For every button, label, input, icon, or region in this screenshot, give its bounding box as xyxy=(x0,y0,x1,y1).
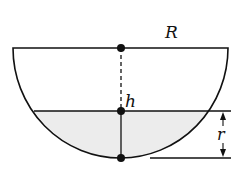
surface-center-dot xyxy=(117,107,125,115)
label-r: r xyxy=(217,125,226,144)
diagram-svg: R h r xyxy=(0,0,231,180)
arrow-up-icon xyxy=(220,112,226,120)
label-h: h xyxy=(125,91,136,111)
arrow-down-icon xyxy=(220,149,226,157)
top-center-dot xyxy=(117,44,125,52)
label-R: R xyxy=(164,22,178,42)
bottom-dot xyxy=(117,154,125,162)
bowl-diagram: R h r xyxy=(0,0,231,180)
